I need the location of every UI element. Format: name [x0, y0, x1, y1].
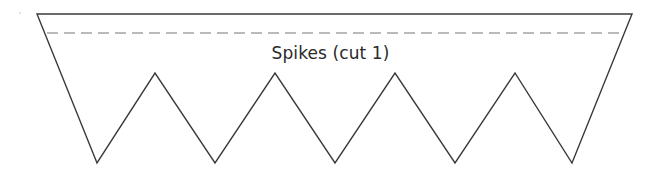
spikes-cut-template	[0, 0, 661, 174]
template-label: Spikes (cut 1)	[0, 43, 661, 63]
template-outline	[37, 14, 632, 163]
